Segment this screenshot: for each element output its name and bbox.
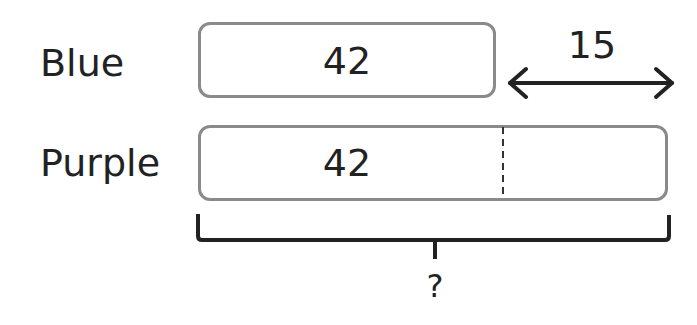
double-arrow-icon (510, 69, 672, 97)
diagram-lines (0, 0, 697, 325)
total-unknown: ? (427, 270, 444, 302)
bracket-icon (198, 214, 669, 259)
